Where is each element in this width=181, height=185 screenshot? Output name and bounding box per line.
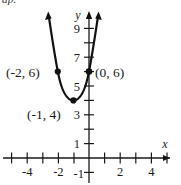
point-label-vertex: (-1, 4): [27, 107, 61, 122]
graph-canvas: -4 -2 2 4 x 9 7 5 3 1 -1: [0, 0, 181, 185]
y-axis-label: y: [74, 8, 81, 22]
parabola-figure: ap. -4 -2 2 4 x: [0, 0, 181, 185]
cropped-header-text: ap.: [2, 0, 16, 5]
x-tick-label-neg2: -2: [53, 165, 63, 179]
curve-right-arrow-icon: [95, 12, 102, 21]
point-marker-neg1-4: [70, 97, 76, 103]
y-axis-arrow-icon: [86, 11, 92, 19]
y-tick-label-neg1: -1: [74, 167, 84, 181]
y-axis: 9 7 5 3 1 -1 y: [74, 8, 94, 183]
curve-left-arrow-icon: [45, 12, 52, 21]
point-marker-neg2-6: [55, 69, 61, 75]
x-tick-label-2: 2: [117, 165, 123, 179]
y-tick-label-3: 3: [74, 108, 80, 122]
point-label-left: (-2, 6): [6, 65, 40, 80]
point-marker-0-6: [86, 68, 93, 75]
y-tick-label-7: 7: [74, 51, 80, 65]
x-axis-label: x: [161, 137, 168, 151]
y-tick-label-1: 1: [74, 137, 80, 151]
point-label-right: (0, 6): [95, 65, 124, 80]
y-tick-label-9: 9: [74, 22, 80, 36]
x-tick-label-neg4: -4: [22, 165, 33, 179]
x-tick-label-4: 4: [148, 165, 155, 179]
y-tick-label-5: 5: [74, 80, 80, 94]
